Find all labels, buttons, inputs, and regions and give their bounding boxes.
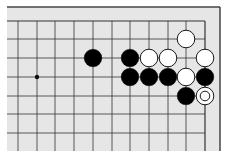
black-stone[interactable] <box>196 68 214 86</box>
black-stone[interactable] <box>140 68 158 86</box>
white-stone[interactable] <box>177 30 195 48</box>
black-stone[interactable] <box>177 87 195 105</box>
black-stone[interactable] <box>121 68 139 86</box>
go-board <box>0 0 228 151</box>
black-stone[interactable] <box>121 49 139 67</box>
white-stone[interactable] <box>196 87 214 105</box>
star-points <box>35 75 39 79</box>
black-stone[interactable] <box>84 49 102 67</box>
white-stone[interactable] <box>177 68 195 86</box>
white-stone[interactable] <box>196 49 214 67</box>
black-stone[interactable] <box>159 68 177 86</box>
star-point <box>35 75 39 79</box>
white-stone[interactable] <box>140 49 158 67</box>
white-stone[interactable] <box>159 49 177 67</box>
